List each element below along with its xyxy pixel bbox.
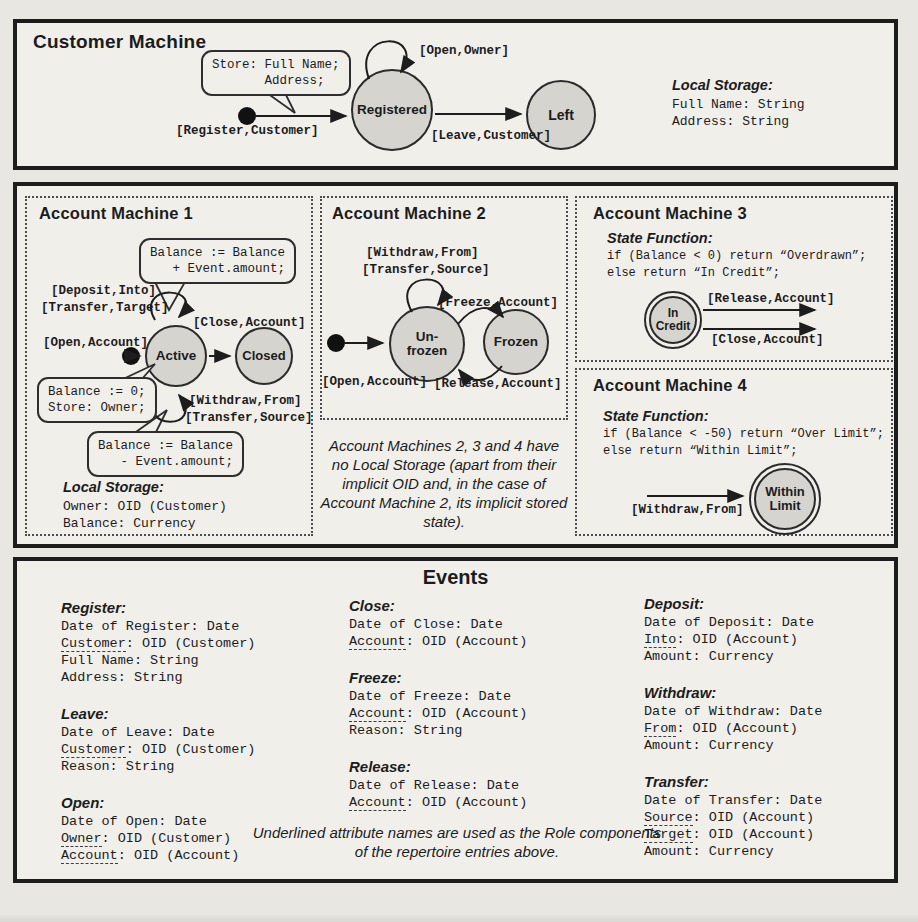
local-storage-lines: Full Name: String Address: String (672, 96, 805, 130)
event-attr: Address: String (61, 669, 255, 686)
event-close: Close: Date of Close: Date Account: OID … (349, 597, 527, 650)
release-account-label: [Release,Account] (707, 292, 835, 306)
transfer-target-label: [Transfer,Target] (41, 301, 169, 315)
event-leave: Leave: Date of Leave: Date Customer: OID… (61, 705, 255, 775)
close-account-label: [Close,Account] (193, 316, 306, 330)
event-attr: Date of Register: Date (61, 618, 255, 635)
account-machine-3: Account Machine 3 State Function: if (Ba… (575, 196, 893, 362)
account-machines-panel: Account Machine 1 Balance := Balance + E… (13, 182, 898, 548)
state-closed: Closed (235, 327, 293, 385)
event-attr: Customer: OID (Customer) (61, 635, 255, 652)
leave-customer-label: [Leave,Customer] (431, 129, 551, 143)
balance-init-bubble: Balance := 0; Store: Owner; (37, 377, 157, 423)
event-attr: Account: OID (Account) (349, 705, 527, 722)
account-machine-1-title: Account Machine 1 (39, 204, 193, 223)
event-freeze: Freeze: Date of Freeze: Date Account: OI… (349, 669, 527, 739)
event-attr: Date of Transfer: Date (644, 792, 822, 809)
local-storage-title: Local Storage: (63, 479, 227, 495)
local-storage-title: Local Storage: (672, 77, 805, 93)
local-storage-lines: Owner: OID (Customer) Balance: Currency (63, 498, 227, 532)
transfer-source-label: [Transfer,Source] (362, 263, 490, 277)
register-customer-label: [Register,Customer] (176, 124, 319, 138)
account-machine-4: Account Machine 4 State Function: if (Ba… (575, 368, 893, 536)
event-deposit: Deposit: Date of Deposit: Date Into: OID… (644, 595, 822, 665)
event-attr: Reason: String (61, 758, 255, 775)
event-attr: Account: OID (Account) (349, 794, 527, 811)
event-register: Register: Date of Register: Date Custome… (61, 599, 255, 686)
open-owner-label: [Open,Owner] (419, 44, 509, 58)
event-attr: Reason: String (349, 722, 527, 739)
state-active: Active (145, 325, 207, 387)
event-release: Release: Date of Release: Date Account: … (349, 758, 527, 811)
event-name: Close: (349, 597, 527, 614)
state-frozen: Frozen (483, 309, 549, 375)
state-function-code: if (Balance < 0) return “Overdrawn”; els… (607, 248, 866, 282)
event-name: Leave: (61, 705, 255, 722)
event-attr: Customer: OID (Customer) (61, 741, 255, 758)
store-action-bubble: Store: Full Name; Address; (201, 50, 351, 96)
event-name: Transfer: (644, 773, 822, 790)
event-attr: From: OID (Account) (644, 720, 822, 737)
account-machine-2-title: Account Machine 2 (332, 204, 486, 223)
close-account-label: [Close,Account] (711, 333, 824, 347)
event-attr: Date of Deposit: Date (644, 614, 822, 631)
open-account-label: [Open,Account] (43, 336, 148, 350)
state-function-title: State Function: (607, 230, 713, 246)
event-attr: Date of Leave: Date (61, 724, 255, 741)
event-transfer: Transfer: Date of Transfer: Date Source:… (644, 773, 822, 860)
withdraw-self-loop (152, 393, 185, 422)
state-function-title: State Function: (603, 408, 709, 424)
event-attr: Amount: Currency (644, 843, 822, 860)
account-machine-2: Account Machine 2 [Withdraw,From] [Trans… (320, 196, 568, 420)
event-attr: Amount: Currency (644, 648, 822, 665)
events-column-2: Close: Date of Close: Date Account: OID … (349, 597, 527, 830)
state-in-credit: In Credit (644, 291, 702, 349)
events-panel: Events Register: Date of Register: Date … (13, 557, 898, 883)
state-unfrozen: Un- frozen (389, 306, 465, 382)
no-local-storage-note: Account Machines 2, 3 and 4 have no Loca… (320, 436, 568, 531)
state-within-limit: Within Limit (749, 463, 821, 535)
initial-state-dot (238, 107, 256, 125)
account-machine-3-title: Account Machine 3 (593, 204, 747, 223)
event-name: Register: (61, 599, 255, 616)
event-open: Open: Date of Open: Date Owner: OID (Cus… (61, 794, 255, 864)
event-attr: Owner: OID (Customer) (61, 830, 255, 847)
event-name: Freeze: (349, 669, 527, 686)
customer-machine-title: Customer Machine (33, 31, 206, 53)
event-attr: Full Name: String (61, 652, 255, 669)
events-title: Events (17, 566, 894, 589)
scan-edge-shadow (0, 914, 918, 922)
event-name: Deposit: (644, 595, 822, 612)
event-attr: Account: OID (Account) (349, 633, 527, 650)
release-account-label: [Release,Account] (434, 377, 562, 391)
events-column-1: Register: Date of Register: Date Custome… (61, 599, 255, 883)
event-attr: Date of Open: Date (61, 813, 255, 830)
event-name: Release: (349, 758, 527, 775)
event-attr: Target: OID (Account) (644, 826, 822, 843)
withdraw-from-label: [Withdraw,From] (189, 394, 302, 408)
event-attr: Date of Close: Date (349, 616, 527, 633)
event-name: Open: (61, 794, 255, 811)
event-attr: Into: OID (Account) (644, 631, 822, 648)
event-attr: Amount: Currency (644, 737, 822, 754)
state-registered: Registered (351, 69, 433, 151)
withdraw-from-label: [Withdraw,From] (631, 503, 744, 517)
balance-minus-bubble: Balance := Balance - Event.amount; (87, 431, 244, 477)
event-attr: Date of Release: Date (349, 777, 527, 794)
event-attr: Source: OID (Account) (644, 809, 822, 826)
event-name: Withdraw: (644, 684, 822, 701)
account-machine-4-title: Account Machine 4 (593, 376, 747, 395)
customer-machine-panel: Customer Machine Store: Full Name; Addre… (13, 19, 898, 170)
events-column-3: Deposit: Date of Deposit: Date Into: OID… (644, 595, 822, 879)
event-withdraw: Withdraw: Date of Withdraw: Date From: O… (644, 684, 822, 754)
underlined-attributes-note: Underlined attribute names are used as t… (247, 823, 667, 861)
event-attr: Date of Freeze: Date (349, 688, 527, 705)
withdraw-from-label: [Withdraw,From] (366, 246, 479, 260)
balance-plus-bubble: Balance := Balance + Event.amount; (139, 238, 296, 284)
event-attr: Account: OID (Account) (61, 847, 255, 864)
bubble-tail (267, 93, 295, 113)
customer-local-storage: Local Storage: Full Name: String Address… (672, 77, 805, 130)
freeze-account-label: [Freeze,Account] (438, 296, 558, 310)
open-account-label: [Open,Account] (322, 375, 427, 389)
account-machine-1: Account Machine 1 Balance := Balance + E… (25, 196, 313, 536)
